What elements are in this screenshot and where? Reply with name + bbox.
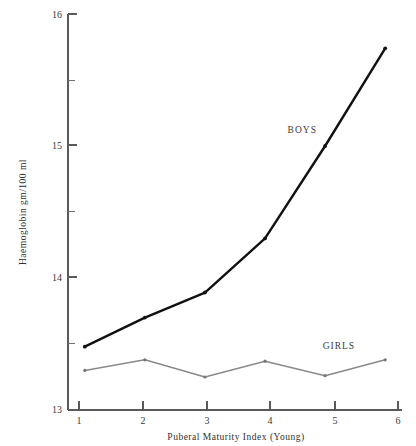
- y-tick-label-14: 14: [52, 272, 62, 283]
- x-tick-label-4: 4: [268, 415, 273, 426]
- series-label-girls: GIRLS: [323, 341, 355, 351]
- boys-markers: [83, 46, 387, 348]
- boys-data-point: [83, 345, 87, 349]
- girls-data-point: [384, 358, 387, 361]
- boys-line: [85, 48, 385, 346]
- x-tick-label-6: 6: [396, 415, 401, 426]
- girls-data-point: [203, 375, 206, 378]
- girls-line: [85, 360, 385, 377]
- y-axis-title: Haemoglobin gm/100 ml: [18, 159, 28, 265]
- x-tick-label-1: 1: [77, 415, 82, 426]
- x-axis-title: Puberal Maturity Index (Young): [167, 432, 304, 443]
- series-group-girls: [83, 358, 387, 378]
- series-group-boys: [83, 46, 387, 348]
- x-tick-label-3: 3: [205, 415, 210, 426]
- y-tick-label-16: 16: [52, 9, 62, 20]
- y-tick-label-15: 15: [52, 140, 62, 151]
- boys-data-point: [263, 237, 267, 241]
- chart-canvas: 16 15 14 13 1 2 3 4 5 6 Puberal Maturity…: [0, 0, 416, 446]
- boys-data-point: [383, 46, 387, 50]
- x-tick-label-5: 5: [333, 415, 338, 426]
- series-label-boys: BOYS: [288, 125, 317, 135]
- girls-data-point: [263, 360, 266, 363]
- girls-data-point: [143, 358, 146, 361]
- girls-data-point: [324, 374, 327, 377]
- boys-data-point: [323, 144, 327, 148]
- boys-data-point: [143, 316, 147, 320]
- y-tick-label-13: 13: [52, 404, 62, 415]
- haemoglobin-puberal-maturity-chart: 16 15 14 13 1 2 3 4 5 6 Puberal Maturity…: [0, 0, 416, 446]
- boys-data-point: [203, 291, 207, 295]
- girls-data-point: [83, 369, 86, 372]
- x-tick-label-2: 2: [141, 415, 146, 426]
